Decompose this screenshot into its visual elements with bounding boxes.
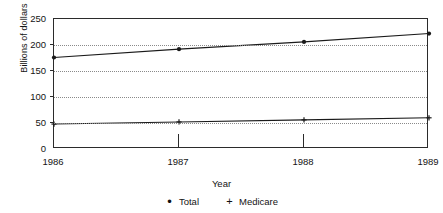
y-tick-label: 200 [14,39,46,50]
series-layer [54,19,429,149]
x-tick-label: 1988 [292,156,313,167]
data-point-total [302,40,306,44]
dot-marker-icon: • [165,195,174,208]
x-tick-mark [303,134,304,148]
chart-legend: •Total+Medicare [0,195,443,208]
x-tick-label: 1989 [417,156,438,167]
gridline-y [54,45,427,46]
y-tick-label: 50 [14,117,46,128]
x-axis-title: Year [0,178,443,189]
data-point-total [427,31,431,35]
legend-item-medicare: +Medicare [225,196,278,207]
y-tick-mark [50,44,54,45]
y-tick-label: 100 [14,91,46,102]
y-tick-label: 150 [14,65,46,76]
data-point-medicare [301,117,306,122]
plot-area [53,18,428,148]
data-point-total [177,47,181,51]
plus-marker-icon: + [225,196,234,207]
gridline-y [54,123,427,124]
y-tick-mark [50,122,54,123]
legend-label: Medicare [239,196,278,207]
y-tick-label: 0 [14,143,46,154]
data-point-medicare [426,115,431,120]
y-tick-mark [50,70,54,71]
legend-item-total: •Total [165,195,199,208]
y-tick-label: 250 [14,13,46,24]
x-tick-label: 1987 [167,156,188,167]
data-point-total [52,55,56,59]
x-tick-mark [178,134,179,148]
line-chart: Billions of dollars 050100150200250 1986… [0,0,443,213]
gridline-y [54,71,427,72]
x-tick-label: 1986 [42,156,63,167]
y-tick-mark [50,96,54,97]
gridline-y [54,97,427,98]
legend-label: Total [179,196,199,207]
